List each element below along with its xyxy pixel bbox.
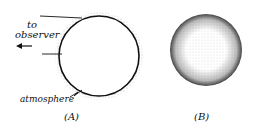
arrow-left-icon (16, 43, 32, 49)
diagram-graphics (0, 0, 256, 127)
atmosphere-label: atmosphere (20, 94, 74, 104)
panel-b-label: (B) (194, 112, 209, 122)
diagram: to observer atmosphere (A) (B) (0, 0, 256, 127)
planet-a (55, 12, 143, 100)
observer-label-line2: observer (15, 30, 60, 40)
sightline-top (40, 16, 82, 18)
planet-b (170, 14, 242, 86)
panel-a-label: (A) (64, 112, 79, 122)
